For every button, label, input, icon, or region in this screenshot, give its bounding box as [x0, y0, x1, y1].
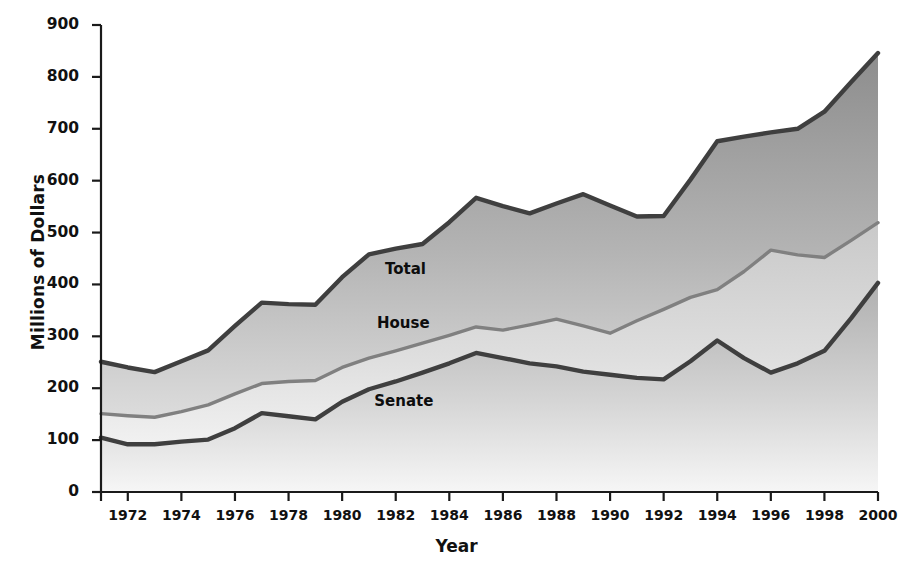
- series-label-house: House: [377, 314, 430, 332]
- x-tick-label: 1998: [794, 508, 854, 522]
- x-tick-label: 1984: [419, 508, 479, 522]
- x-tick-label: 1974: [151, 508, 211, 522]
- x-tick-label: 2000: [848, 508, 908, 522]
- x-tick-label: 1980: [312, 508, 372, 522]
- y-tick-label: 100: [23, 432, 79, 448]
- x-axis-title: Year: [0, 536, 913, 556]
- x-tick-label: 1982: [366, 508, 426, 522]
- series-bands: [101, 53, 878, 492]
- x-tick-label: 1994: [687, 508, 747, 522]
- y-tick-label: 0: [23, 484, 79, 500]
- x-tick-label: 1978: [259, 508, 319, 522]
- x-tick-label: 1986: [473, 508, 533, 522]
- x-tick-label: 1976: [205, 508, 265, 522]
- y-tick-label: 300: [23, 328, 79, 344]
- y-tick-label: 600: [23, 173, 79, 189]
- y-tick-label: 200: [23, 380, 79, 396]
- series-label-senate: Senate: [374, 392, 433, 410]
- y-tick-label: 900: [23, 17, 79, 33]
- x-tick-label: 1992: [634, 508, 694, 522]
- x-tick-label: 1988: [526, 508, 586, 522]
- x-tick-label: 1990: [580, 508, 640, 522]
- y-tick-label: 700: [23, 121, 79, 137]
- x-tick-label: 1996: [741, 508, 801, 522]
- plot-area: [0, 0, 913, 571]
- y-axis-title: Millions of Dollars: [28, 132, 48, 392]
- series-label-total: Total: [385, 260, 426, 278]
- y-tick-label: 400: [23, 276, 79, 292]
- y-tick-label: 800: [23, 69, 79, 85]
- area-chart: Millions of Dollars Year 0100200: [0, 0, 913, 571]
- y-tick-label: 500: [23, 225, 79, 241]
- x-tick-label: 1972: [98, 508, 158, 522]
